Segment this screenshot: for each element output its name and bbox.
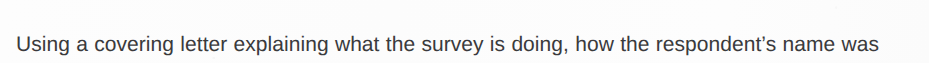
paragraph-line-1: Using a covering letter explaining what …	[16, 28, 921, 62]
body-paragraph: Using a covering letter explaining what …	[16, 0, 921, 63]
scanned-page-surface: Using a covering letter explaining what …	[0, 0, 929, 63]
